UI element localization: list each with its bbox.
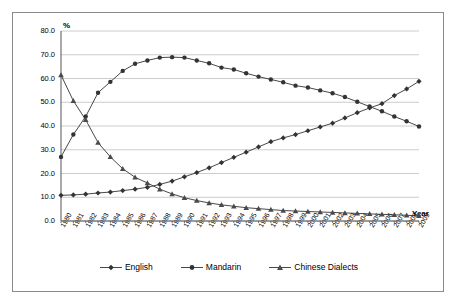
legend-marker-diamond-icon: [100, 263, 122, 272]
legend-label: Mandarin: [206, 262, 241, 272]
chart-frame: % Year 0.010.020.030.040.050.060.070.080…: [12, 12, 444, 292]
series-mandarin: [59, 55, 421, 159]
legend-item-chinese-dialects: Chinese Dialects: [269, 262, 358, 272]
legend-marker-circle-icon: [181, 263, 203, 272]
legend-label: Chinese Dialects: [294, 262, 358, 272]
plot-area: [13, 13, 445, 293]
series-english: [58, 79, 421, 198]
chart-legend: EnglishMandarinChinese Dialects: [13, 262, 445, 272]
legend-marker-triangle-icon: [269, 263, 291, 272]
series-chinese-dialects: [58, 72, 422, 218]
legend-label: English: [125, 262, 153, 272]
legend-item-mandarin: Mandarin: [181, 262, 241, 272]
legend-item-english: English: [100, 262, 153, 272]
